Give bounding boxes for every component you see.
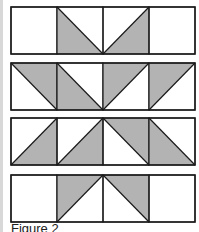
block-cell: [103, 175, 149, 222]
block-cell: [149, 63, 195, 110]
block-cell: [103, 118, 149, 165]
block-cell: [11, 63, 57, 110]
block-cell: [57, 7, 103, 54]
block-cell: [57, 63, 103, 110]
block-row-2: [11, 63, 195, 110]
block-cell: [149, 175, 195, 222]
block-cell: [149, 118, 195, 165]
cell-outline: [149, 7, 195, 54]
block-cell: [103, 63, 149, 110]
block-cell: [11, 118, 57, 165]
block-cell: [11, 7, 57, 54]
quilt-block-diagram: [0, 0, 199, 232]
block-cell: [149, 7, 195, 54]
block-cell: [103, 7, 149, 54]
block-cell: [11, 175, 57, 222]
block-cell: [57, 118, 103, 165]
block-row-4: [11, 175, 195, 222]
figure-caption: Figure 2: [11, 222, 59, 232]
block-row-1: [11, 7, 195, 54]
block-cell: [57, 175, 103, 222]
cell-outline: [11, 7, 57, 54]
block-row-3: [11, 118, 195, 165]
cell-outline: [149, 175, 195, 222]
cell-outline: [11, 175, 57, 222]
